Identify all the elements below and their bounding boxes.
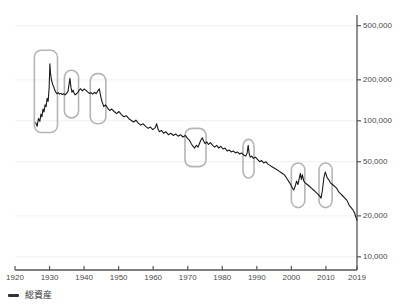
gridlines-group [15,26,357,257]
x-tick-label: 1960 [144,274,162,282]
x-tick-label: 1980 [213,274,231,282]
x-tick-label: 1920 [6,274,24,282]
y-tick-label: 10,000 [363,253,387,261]
highlight-1942-1946 [90,74,106,124]
y-tick-label: 500,000 [363,22,392,30]
x-tick-label: 2010 [317,274,335,282]
y-tick-label: 50,000 [363,158,387,166]
chart-legend: 総資産 [8,291,52,300]
x-tick-label: 1930 [41,274,59,282]
y-tick-label: 20,000 [363,212,387,220]
x-tick-label: 1970 [179,274,197,282]
y-tick-label: 200,000 [363,76,392,84]
x-tick-label: 1990 [248,274,266,282]
x-tick-label: 2019 [348,274,366,282]
highlight-2008-2012 [319,163,332,208]
y-tick-label: 100,000 [363,117,392,125]
line-chart-plot [0,0,403,308]
data-series-group [36,64,357,220]
highlight-2000-2004 [291,163,304,208]
legend-label: 総資産 [25,291,52,300]
x-tick-label: 1950 [110,274,128,282]
x-tick-label: 2000 [282,274,300,282]
x-tick-label: 1940 [75,274,93,282]
legend-line-swatch-icon [8,294,19,297]
series-line-0 [36,64,357,220]
axes-group [15,15,361,270]
chart-container: 500,000200,000100,00050,00020,00010,000 … [0,0,403,308]
highlight-boxes-group [34,50,332,207]
